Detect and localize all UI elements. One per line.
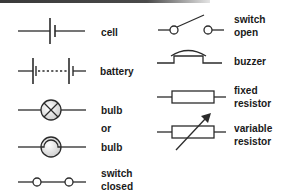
switch-closed-icon — [18, 178, 86, 186]
label-fixed-resistor-line1: fixed — [234, 84, 258, 97]
buzzer-icon — [157, 51, 222, 64]
label-or: or — [101, 122, 111, 135]
label-cell: cell — [101, 26, 118, 39]
fixed-resistor-icon — [157, 91, 226, 103]
bulb-filament-icon — [18, 137, 86, 157]
label-switch-closed-line1: switch — [101, 167, 133, 180]
circuit-symbols-diagram: cell battery bulb or bulb switch closed … — [0, 0, 282, 196]
variable-resistor-icon — [157, 118, 226, 150]
label-switch-open-line1: switch — [234, 13, 266, 26]
cell-icon — [18, 18, 85, 44]
label-bulb-filament: bulb — [101, 141, 122, 154]
label-switch-closed-line2: closed — [101, 180, 133, 193]
label-buzzer: buzzer — [234, 55, 266, 68]
label-bulb-cross: bulb — [101, 104, 122, 117]
label-variable-resistor-line2: resistor — [234, 135, 271, 148]
switch-open-icon — [158, 15, 224, 34]
battery-icon — [18, 58, 86, 84]
bulb-cross-icon — [18, 100, 86, 120]
label-switch-open-line2: open — [234, 26, 258, 39]
label-variable-resistor-line1: variable — [234, 122, 272, 135]
label-battery: battery — [100, 65, 134, 78]
label-fixed-resistor-line2: resistor — [234, 97, 271, 110]
